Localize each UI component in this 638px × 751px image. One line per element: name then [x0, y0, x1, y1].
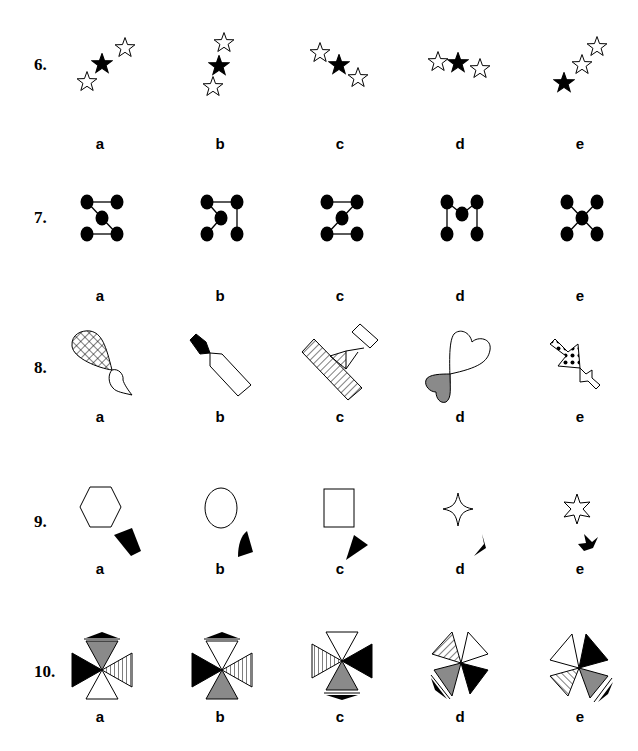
option-9b-figure[interactable]: [195, 480, 270, 560]
option-8c-figure[interactable]: [300, 320, 390, 405]
option-label-d[interactable]: d: [450, 287, 470, 304]
option-8e-figure[interactable]: [548, 338, 618, 403]
star-icon: [329, 55, 349, 74]
star-icon: [470, 59, 490, 78]
option-label-b[interactable]: b: [210, 408, 230, 425]
star-icon: [310, 43, 330, 62]
star-icon: [587, 37, 607, 56]
star-icon: [214, 33, 234, 52]
option-7a-figure[interactable]: [75, 190, 135, 245]
option-label-e[interactable]: e: [570, 560, 590, 577]
option-10c-figure[interactable]: [310, 628, 374, 702]
option-6b-figure[interactable]: [190, 28, 250, 118]
option-label-d[interactable]: d: [450, 135, 470, 152]
option-label-b[interactable]: b: [210, 287, 230, 304]
hexagon-shape: [80, 487, 121, 527]
star-icon: [428, 52, 448, 71]
star-icon: [92, 54, 112, 73]
question-number: 9.: [34, 512, 47, 532]
option-label-d[interactable]: d: [450, 708, 470, 725]
dotted-arrow: [550, 339, 580, 368]
option-10b-figure[interactable]: [190, 628, 254, 702]
four-point-star: [443, 493, 473, 526]
star-icon: [554, 73, 574, 92]
question-number: 10.: [34, 662, 55, 682]
option-6d-figure[interactable]: [425, 45, 510, 100]
option-9a-figure[interactable]: [75, 480, 150, 560]
star-icon: [572, 55, 592, 74]
option-10e-figure[interactable]: [546, 630, 616, 702]
option-label-e[interactable]: e: [570, 135, 590, 152]
star-icon: [115, 38, 135, 57]
option-label-c[interactable]: c: [330, 708, 350, 725]
option-7c-figure[interactable]: [315, 190, 375, 245]
teardrop-shape: [72, 331, 112, 370]
heart-shape: [450, 331, 491, 384]
option-label-e[interactable]: e: [570, 708, 590, 725]
option-label-e[interactable]: e: [570, 287, 590, 304]
black-sector: [238, 531, 253, 557]
option-8d-figure[interactable]: [422, 328, 502, 406]
option-label-a[interactable]: a: [90, 708, 110, 725]
option-10a-figure[interactable]: [70, 628, 134, 702]
option-label-a[interactable]: a: [90, 560, 110, 577]
option-label-b[interactable]: b: [210, 708, 230, 725]
option-8b-figure[interactable]: [188, 330, 258, 400]
teardrop-shape: [109, 370, 132, 395]
star-icon: [203, 77, 223, 96]
option-9c-figure[interactable]: [315, 480, 400, 560]
square-shape: [324, 489, 354, 527]
option-label-a[interactable]: a: [90, 287, 110, 304]
option-6c-figure[interactable]: [305, 38, 385, 108]
option-label-d[interactable]: d: [450, 408, 470, 425]
option-7b-figure[interactable]: [195, 190, 255, 245]
option-6a-figure[interactable]: [70, 35, 140, 115]
black-arrowhead: [578, 534, 598, 551]
dot-icons: [561, 195, 604, 242]
option-label-c[interactable]: c: [330, 560, 350, 577]
option-label-c[interactable]: c: [330, 135, 350, 152]
white-arrow: [580, 368, 600, 389]
option-label-c[interactable]: c: [330, 287, 350, 304]
star-icon: [348, 68, 368, 87]
pentagon-shape: [190, 334, 210, 354]
star-icon: [77, 72, 97, 91]
option-7d-figure[interactable]: [435, 190, 495, 245]
option-label-c[interactable]: c: [330, 408, 350, 425]
heart-shape-gray: [426, 374, 451, 402]
question-number: 8.: [34, 358, 47, 378]
white-rectangle: [352, 324, 378, 348]
option-label-b[interactable]: b: [210, 560, 230, 577]
option-9e-figure[interactable]: [560, 490, 630, 565]
option-label-a[interactable]: a: [90, 408, 110, 425]
black-chevron: [474, 534, 486, 556]
option-10d-figure[interactable]: [428, 630, 496, 702]
option-7e-figure[interactable]: [555, 190, 615, 245]
option-label-e[interactable]: e: [570, 408, 590, 425]
black-trapezoid: [114, 528, 141, 556]
black-triangle: [346, 535, 368, 560]
striped-rectangle: [302, 339, 362, 400]
question-number: 7.: [34, 208, 47, 228]
option-label-d[interactable]: d: [450, 560, 470, 577]
circle-shape: [205, 488, 237, 528]
option-8a-figure[interactable]: [68, 328, 138, 400]
option-9d-figure[interactable]: [440, 490, 510, 565]
star-icon: [209, 56, 229, 75]
six-point-star: [564, 494, 590, 524]
pentagon-shape: [210, 353, 251, 396]
option-label-b[interactable]: b: [210, 135, 230, 152]
question-number: 6.: [34, 55, 47, 75]
star-icon: [448, 53, 468, 72]
option-label-a[interactable]: a: [90, 135, 110, 152]
option-6e-figure[interactable]: [545, 32, 615, 117]
